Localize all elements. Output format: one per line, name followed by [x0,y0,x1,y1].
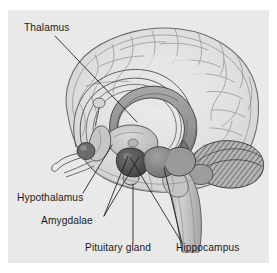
label-thalamus: Thalamus [24,22,70,33]
interthalamic-adhesion [128,139,138,147]
hippocampus-tail [165,147,196,176]
brain-diagram-canvas: Thalamus Hypothalamus Amygdalae Pituitar… [0,0,277,273]
label-amygdalae: Amygdalae [41,215,93,226]
mammillary-highlight [80,145,86,151]
brain-diagram-figure: Thalamus Hypothalamus Amygdalae Pituitar… [0,0,277,273]
fornix-column-head [93,98,105,108]
mammillary-body [77,143,95,160]
label-hippocampus: Hippocampus [176,242,239,253]
label-hypothalamus: Hypothalamus [17,192,83,203]
label-pituitary-gland: Pituitary gland [85,242,151,253]
